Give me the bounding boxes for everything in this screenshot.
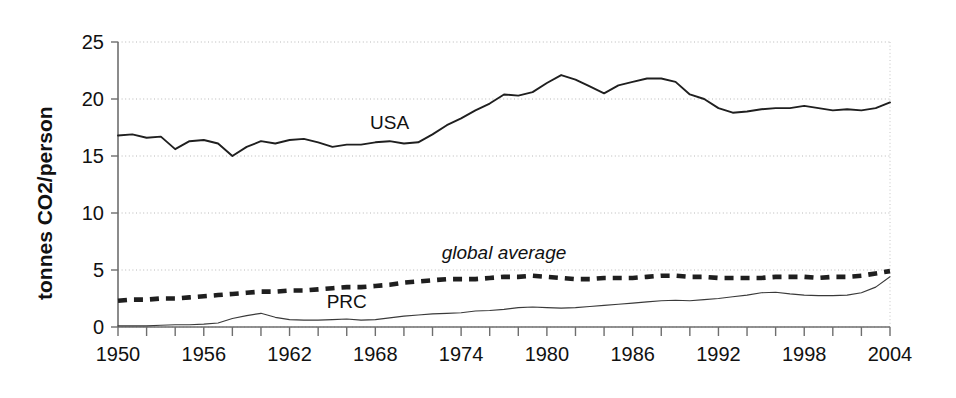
- co2-per-person-line-chart: 0510152025 19501956196219681974198019861…: [0, 0, 956, 398]
- gridlines-group: [118, 42, 890, 327]
- y-tick-label-20: 20: [82, 88, 104, 110]
- x-tick-label-1998: 1998: [782, 343, 827, 365]
- axes-group: [118, 42, 890, 327]
- y-tick-label-0: 0: [93, 316, 104, 338]
- x-tick-label-1980: 1980: [525, 343, 570, 365]
- x-tick-label-1974: 1974: [439, 343, 484, 365]
- series-label-global-average: global average: [442, 242, 567, 263]
- x-tick-label-1956: 1956: [182, 343, 227, 365]
- x-tick-label-2004: 2004: [868, 343, 913, 365]
- x-tick-label-1950: 1950: [96, 343, 141, 365]
- y-tick-label-25: 25: [82, 31, 104, 53]
- x-tick-label-1986: 1986: [610, 343, 655, 365]
- y-tick-label-10: 10: [82, 202, 104, 224]
- y-tick-labels-group: 0510152025: [82, 31, 104, 338]
- series-path-global-average: [118, 271, 890, 301]
- y-axis-title: tonnes CO2/person: [33, 106, 56, 300]
- x-tick-labels-group: 1950195619621968197419801986199219982004: [96, 343, 913, 365]
- x-tick-label-1992: 1992: [696, 343, 741, 365]
- series-path-usa: [118, 75, 890, 156]
- chart-container: 0510152025 19501956196219681974198019861…: [0, 0, 956, 398]
- series-label-usa: USA: [370, 112, 409, 133]
- y-tick-label-5: 5: [93, 259, 104, 281]
- series-label-prc: PRC: [327, 291, 367, 312]
- y-tick-label-15: 15: [82, 145, 104, 167]
- data-series-group: [118, 75, 890, 326]
- series-path-prc: [118, 277, 890, 326]
- x-tick-label-1962: 1962: [267, 343, 312, 365]
- x-tick-label-1968: 1968: [353, 343, 398, 365]
